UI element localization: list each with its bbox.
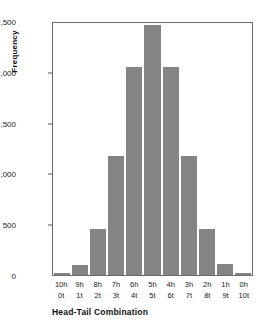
bar-column <box>107 23 125 275</box>
bar <box>107 156 125 275</box>
x-tick-heads: 5h <box>148 280 156 289</box>
bar-column <box>162 23 180 275</box>
x-tick-heads: 7h <box>112 280 120 289</box>
x-axis-tick-label: 7h3t <box>107 279 125 301</box>
plot-area <box>52 22 253 276</box>
bar <box>180 156 198 275</box>
bar <box>198 229 216 275</box>
bar-column <box>71 23 89 275</box>
x-tick-heads: 10h <box>55 280 68 289</box>
x-tick-heads: 3h <box>185 280 193 289</box>
bar <box>125 67 143 275</box>
x-axis-tick-label: 3h7t <box>180 279 198 301</box>
x-axis-tick-label: 9h1t <box>70 279 88 301</box>
y-axis-tick-label: 500 <box>0 221 16 230</box>
x-tick-tails: 3t <box>107 290 125 301</box>
x-tick-heads: 1h <box>221 280 229 289</box>
x-axis-tick-label: 5h5t <box>143 279 161 301</box>
x-axis-tick-label: 1h9t <box>216 279 234 301</box>
bar-series <box>53 23 252 275</box>
x-tick-heads: 6h <box>130 280 138 289</box>
y-axis-tick-label: 1,000 <box>0 170 16 179</box>
x-tick-tails: 5t <box>143 290 161 301</box>
bar <box>234 273 252 275</box>
bar-column <box>234 23 252 275</box>
x-tick-tails: 2t <box>89 290 107 301</box>
x-axis-tick-label: 6h4t <box>125 279 143 301</box>
x-axis-tick-label: 4h6t <box>162 279 180 301</box>
x-tick-heads: 8h <box>93 280 101 289</box>
x-tick-heads: 2h <box>203 280 211 289</box>
bar <box>53 273 71 275</box>
bar-column <box>89 23 107 275</box>
bar-column <box>198 23 216 275</box>
bar <box>162 67 180 275</box>
y-axis-tick-label: 2,500 <box>0 18 16 27</box>
x-axis-tick-label: 2h8t <box>198 279 216 301</box>
x-tick-tails: 1t <box>70 290 88 301</box>
bar <box>216 264 234 275</box>
x-tick-tails: 0t <box>52 290 70 301</box>
bar-column <box>53 23 71 275</box>
x-tick-tails: 7t <box>180 290 198 301</box>
y-axis-tick-label: 1,500 <box>0 119 16 128</box>
x-axis-tick-label: 8h2t <box>89 279 107 301</box>
x-axis-tick-labels: 10h0t9h1t8h2t7h3t6h4t5h5t4h6t3h7t2h8t1h9… <box>52 279 253 301</box>
bar-column <box>216 23 234 275</box>
bar <box>89 229 107 275</box>
bar <box>143 25 161 275</box>
x-tick-heads: 4h <box>167 280 175 289</box>
x-axis-tick-label: 0h10t <box>235 279 253 301</box>
x-tick-tails: 6t <box>162 290 180 301</box>
bar-column <box>180 23 198 275</box>
x-axis-tick-label: 10h0t <box>52 279 70 301</box>
bar <box>71 265 89 275</box>
x-tick-tails: 4t <box>125 290 143 301</box>
bar-column <box>143 23 161 275</box>
y-axis-tick-label: 0 <box>0 272 16 281</box>
histogram-figure: Frequency 05001,0001,5002,0002,500 10h0t… <box>0 0 269 328</box>
x-axis-title: Head-Tail Combination <box>52 307 148 317</box>
x-tick-tails: 10t <box>235 290 253 301</box>
x-tick-tails: 8t <box>198 290 216 301</box>
y-axis-tick-label: 2,000 <box>0 68 16 77</box>
x-tick-tails: 9t <box>216 290 234 301</box>
x-tick-heads: 9h <box>75 280 83 289</box>
x-tick-heads: 0h <box>240 280 248 289</box>
bar-column <box>125 23 143 275</box>
